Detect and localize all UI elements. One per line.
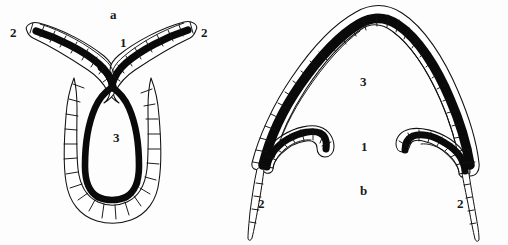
panel-b-callout-2-right: 2 <box>457 197 464 210</box>
panel-b-label: b <box>360 184 367 197</box>
panel-a-callout-2-right: 2 <box>201 26 208 39</box>
panel-a-callout-2-left: 2 <box>10 26 17 39</box>
panel-a-callout-1: 1 <box>120 36 127 49</box>
panel-a-label: a <box>110 8 117 21</box>
panel-a-callout-3: 3 <box>113 131 120 144</box>
panel-b-drawing <box>0 0 508 245</box>
panel-b-callout-3: 3 <box>360 75 367 88</box>
panel-b-callout-1: 1 <box>361 140 368 153</box>
figure-root: a 2 1 2 3 b 3 1 2 2 <box>0 0 508 245</box>
panel-b-callout-2-left: 2 <box>258 197 265 210</box>
